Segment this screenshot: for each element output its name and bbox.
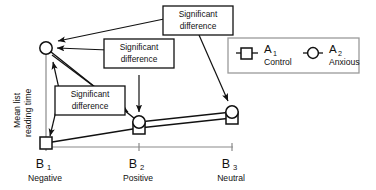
annotation-lower-line1: Significant (71, 89, 110, 99)
annotation-lower[interactable]: Significant difference (55, 86, 125, 115)
x-axis-label-b2: B 2 Positive (123, 157, 153, 183)
marker-control-b1[interactable] (40, 137, 52, 149)
y-axis-title-line1: Mean list (12, 92, 22, 128)
x-tick-name-3: Neutral (217, 173, 245, 183)
y-axis-title-line2: reading time (23, 88, 33, 137)
x-axis-label-b1: B 1 Negative (28, 157, 62, 183)
marker-anxious-b1[interactable] (40, 42, 52, 54)
x-tick-index-2: 2 (140, 163, 144, 172)
x-tick-code-1: B (36, 157, 44, 171)
x-axis-labels: B 1 Negative B 2 Positive B 3 Neutral (28, 157, 245, 183)
annotation-top-line2: difference (180, 21, 217, 31)
legend-marker-circle (308, 48, 319, 59)
y-axis-title: Mean list reading time (12, 88, 33, 137)
arrow-middle-to-b1 (57, 48, 108, 50)
arrow-top-to-b1 (58, 19, 164, 41)
legend-code-anxious: A (329, 43, 337, 55)
annotation-top[interactable]: Significant difference (163, 6, 233, 35)
legend-marker-square (241, 48, 252, 59)
annotation-middle[interactable]: Significant difference (104, 39, 174, 68)
legend-code-control: A (264, 43, 272, 55)
arrow-top-to-b3 (199, 35, 228, 101)
x-tick-code-2: B (129, 157, 137, 171)
x-tick-index-1: 1 (47, 163, 51, 172)
x-axis-label-b3: B 3 Neutral (217, 157, 245, 183)
legend: A 1 Control A 2 Anxious (228, 38, 360, 73)
marker-anxious-b2[interactable] (133, 116, 145, 128)
legend-label-control: Control (264, 57, 292, 67)
annotation-lower-line2: difference (72, 101, 109, 111)
x-tick-name-2: Positive (123, 173, 153, 183)
x-tick-code-3: B (222, 157, 230, 171)
annotation-top-line1: Significant (179, 9, 218, 19)
x-tick-name-1: Negative (28, 173, 62, 183)
chart-figure: Mean list reading time (0, 0, 376, 190)
annotation-middle-line2: difference (121, 54, 158, 64)
annotation-middle-line1: Significant (120, 42, 159, 52)
legend-label-anxious: Anxious (329, 57, 360, 67)
marker-anxious-b3[interactable] (226, 106, 238, 118)
x-tick-index-3: 3 (233, 163, 237, 172)
